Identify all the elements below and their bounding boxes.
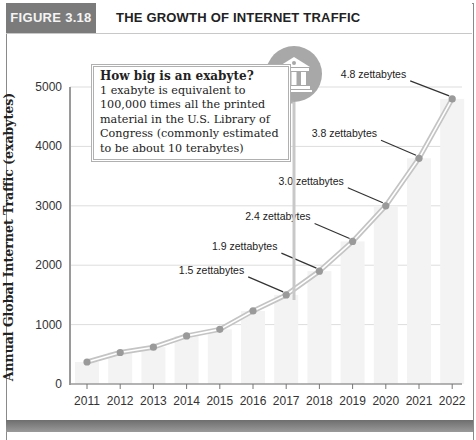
x-tick-label: 2016 [240,394,267,408]
y-axis-ticks: 010002000300040005000 [35,80,62,391]
y-tick-label: 5000 [35,80,62,94]
callout-question: How big is an exabyte? [100,69,284,84]
x-tick-label: 2015 [206,394,233,408]
bar-2014 [175,336,199,384]
leader-line [348,188,383,203]
bar-2019 [341,241,365,384]
exabyte-callout: How big is an exabyte? 1 exabyte is equi… [91,64,291,162]
x-axis-ticks: 2011201220132014201520162017201820192020… [74,384,466,408]
annotation-label: 3.8 zettabytes [312,127,377,139]
x-tick-label: 2017 [273,394,300,408]
data-point-2013 [150,344,157,351]
annotation-label: 1.5 zettabytes [179,264,244,276]
y-tick-label: 4000 [35,139,62,153]
data-point-2022 [449,95,456,102]
data-point-2011 [83,358,90,365]
x-tick-label: 2018 [306,394,333,408]
figure-footer-bar [6,420,473,432]
bar-2020 [374,206,398,384]
bar-2018 [307,271,331,384]
bar-2016 [241,311,265,384]
data-point-2012 [117,349,124,356]
bar-2022 [440,99,464,384]
bar-2015 [208,329,232,384]
annotation-label: 4.8 zettabytes [341,68,406,80]
x-tick-label: 2013 [140,394,167,408]
data-point-2019 [349,238,356,245]
annotation-label: 1.9 zettabytes [212,240,277,252]
y-tick-label: 2000 [35,258,62,272]
bar-2021 [407,158,431,384]
y-tick-label: 0 [55,377,62,391]
data-point-2018 [316,268,323,275]
x-tick-label: 2012 [107,394,134,408]
x-tick-label: 2020 [372,394,399,408]
x-tick-label: 2021 [406,394,433,408]
leader-line [410,81,449,96]
x-tick-label: 2019 [339,394,366,408]
bar-2013 [141,347,165,384]
leader-line [281,253,316,268]
data-point-2014 [183,332,190,339]
annotation-label: 3.0 zettabytes [278,175,343,187]
data-point-2020 [382,202,389,209]
callout-answer: 1 exabyte is equivalent to 100,000 times… [100,84,284,157]
leader-line [381,140,416,155]
data-point-2021 [415,155,422,162]
data-point-2016 [249,307,256,314]
bar-2017 [274,295,298,384]
x-tick-label: 2022 [439,394,466,408]
x-tick-label: 2011 [74,394,100,408]
leader-line [248,277,283,292]
annotation-label: 2.4 zettabytes [245,210,310,222]
y-tick-label: 1000 [35,318,62,332]
x-tick-label: 2014 [173,394,200,408]
y-tick-label: 3000 [35,199,62,213]
data-point-2015 [216,326,223,333]
leader-line [315,223,350,238]
data-point-2017 [283,291,290,298]
